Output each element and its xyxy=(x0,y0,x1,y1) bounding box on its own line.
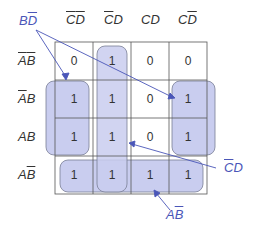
kmap-cell: 0 xyxy=(169,42,207,80)
row-header-a-b: AB xyxy=(18,129,35,144)
column-header-c-bar-d: CD xyxy=(104,12,123,27)
kmap-cell: 1 xyxy=(93,42,131,80)
kmap-cell: 1 xyxy=(93,80,131,118)
kmap-cell: 1 xyxy=(131,156,169,194)
kmap-cell: 1 xyxy=(169,118,207,156)
kmap-cell: 1 xyxy=(93,118,131,156)
kmap-cell: 0 xyxy=(55,42,93,80)
column-header-c-d-bar: CD xyxy=(178,12,197,27)
column-header-c-d: CD xyxy=(141,12,160,27)
kmap-cell: 0 xyxy=(131,118,169,156)
kmap-cell: 0 xyxy=(131,80,169,118)
kmap-cell: 1 xyxy=(93,156,131,194)
group-label-a-b-bar: AB xyxy=(166,207,183,222)
kmap-cell: 0 xyxy=(131,42,169,80)
kmap-cell: 1 xyxy=(55,156,93,194)
row-header-a-bar-b: AB xyxy=(18,91,35,106)
kmap-cell: 1 xyxy=(55,80,93,118)
kmap-cell: 1 xyxy=(169,80,207,118)
row-header-a-b-bar: AB xyxy=(18,167,35,182)
kmap-cell: 1 xyxy=(55,118,93,156)
group-label-c-bar-d: CD xyxy=(224,160,243,175)
row-header-a-bar-b-bar: AB xyxy=(18,53,35,68)
group-label-bd-bar: BD xyxy=(19,13,37,28)
kmap-cell: 1 xyxy=(169,156,207,194)
column-header-c-bar-d-bar: CD xyxy=(66,12,85,27)
